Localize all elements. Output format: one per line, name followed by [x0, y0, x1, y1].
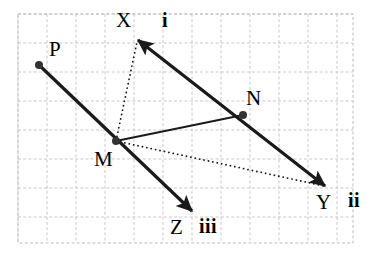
point-label-m: M [94, 149, 113, 170]
point-marker-m [112, 137, 120, 145]
roman-label-i: i [162, 10, 168, 30]
vector-geometry-diagram: PMNXYZ iiiiii [0, 0, 373, 254]
point-label-z: Z [170, 217, 183, 238]
point-label-x: X [116, 10, 131, 31]
point-marker-n [239, 111, 247, 119]
point-marker-p [35, 61, 43, 69]
roman-label-ii: ii [348, 190, 360, 210]
point-label-y: Y [316, 192, 331, 213]
point-label-n: N [246, 88, 261, 109]
point-label-p: P [49, 39, 61, 60]
roman-label-iii: iii [199, 216, 217, 236]
